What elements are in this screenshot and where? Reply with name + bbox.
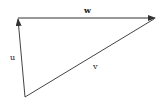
vector-v-arrow [25, 19, 154, 97]
vector-triangle-diagram: w u v [0, 0, 164, 106]
label-u: u [10, 53, 15, 62]
label-w: w [83, 5, 92, 15]
vector-u-arrow [18, 19, 25, 97]
label-v: v [92, 62, 98, 71]
